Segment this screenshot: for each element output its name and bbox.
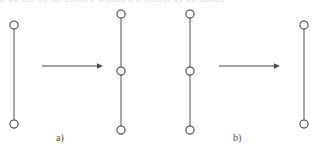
graph-node bbox=[300, 120, 308, 128]
panel-a-graph-right bbox=[117, 10, 125, 134]
panel-label: b) bbox=[233, 132, 241, 144]
graph-node bbox=[186, 126, 194, 134]
panel-a-graph-left bbox=[10, 21, 18, 128]
graph-transformation-diagram: a)b) bbox=[0, 0, 318, 154]
arrow-head-icon bbox=[97, 63, 103, 69]
graph-node bbox=[10, 21, 18, 29]
arrow-head-icon bbox=[274, 63, 280, 69]
panel-b: b) bbox=[186, 10, 308, 144]
figure-container: a wa uul uy un uuiuu a wuunu a u uuulul … bbox=[0, 0, 318, 154]
transformation-arrow bbox=[219, 63, 280, 69]
panel-b-graph-right bbox=[300, 21, 308, 128]
panel-label: a) bbox=[56, 132, 64, 144]
graph-node bbox=[117, 67, 125, 75]
graph-node bbox=[300, 21, 308, 29]
graph-node bbox=[186, 67, 194, 75]
graph-node bbox=[186, 10, 194, 18]
graph-node bbox=[10, 120, 18, 128]
panel-b-graph-left bbox=[186, 10, 194, 134]
panel-a: a) bbox=[10, 10, 125, 144]
transformation-arrow bbox=[42, 63, 103, 69]
graph-node bbox=[117, 10, 125, 18]
graph-node bbox=[117, 126, 125, 134]
